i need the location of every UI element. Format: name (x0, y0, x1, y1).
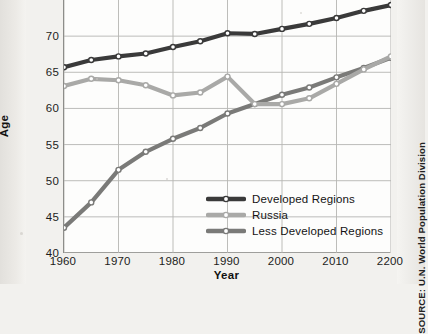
y-axis-tick-label: 45 (46, 211, 59, 223)
data-point-marker (64, 84, 67, 89)
data-point-marker (64, 225, 67, 230)
data-point-marker (280, 102, 285, 107)
data-point-marker (143, 83, 148, 88)
data-point-marker (252, 102, 257, 107)
data-point-marker (116, 78, 121, 83)
y-axis-tick-label: 50 (46, 175, 59, 187)
data-point-marker (171, 93, 176, 98)
legend-item-developed-regions[interactable]: Developed Regions (206, 191, 383, 207)
legend-item-less-developed-regions[interactable]: Less Developed Regions (206, 223, 383, 239)
y-axis-tick-label: 65 (46, 66, 59, 78)
x-axis-tick-label: 1980 (159, 255, 185, 267)
data-point-marker (143, 149, 148, 154)
y-axis-tick-label: 55 (46, 139, 59, 151)
data-point-marker (334, 75, 339, 80)
data-point-marker (334, 16, 339, 21)
x-axis-tick-label: 2010 (322, 255, 348, 267)
x-axis-tick-label: 1990 (213, 255, 239, 267)
x-axis-tick-label: 1960 (50, 255, 76, 267)
data-point-marker (252, 31, 257, 36)
data-point-marker (307, 85, 312, 90)
data-point-marker (225, 111, 230, 116)
data-point-marker (89, 58, 94, 63)
data-point-marker (116, 167, 121, 172)
data-point-marker (198, 125, 203, 130)
y-axis-title: Age (0, 115, 10, 138)
legend-label: Developed Regions (252, 193, 355, 205)
data-point-marker (89, 76, 94, 81)
x-axis-tick-label: 2200 (377, 255, 403, 267)
x-axis-title: Year (63, 269, 390, 281)
data-point-marker (389, 54, 392, 59)
chart-legend: Developed RegionsRussiaLess Developed Re… (206, 191, 383, 239)
data-point-marker (361, 8, 366, 13)
scan-speck (20, 232, 23, 235)
data-point-marker (171, 44, 176, 49)
scan-speck (166, 178, 168, 180)
legend-swatch-icon (206, 223, 246, 239)
y-axis-tick-label: 60 (46, 102, 59, 114)
data-point-marker (171, 136, 176, 141)
data-point-marker (280, 92, 285, 97)
legend-swatch-icon (206, 191, 246, 207)
data-point-marker (307, 96, 312, 101)
data-point-marker (389, 3, 392, 8)
scan-speck (300, 12, 302, 14)
data-point-marker (116, 54, 121, 59)
legend-label: Less Developed Regions (252, 225, 383, 237)
legend-item-russia[interactable]: Russia (206, 207, 383, 223)
y-axis-tick-label: 70 (46, 30, 59, 42)
data-point-marker (280, 26, 285, 31)
legend-label: Russia (252, 209, 288, 221)
source-credit: SOURCE: U.N. World Population Division (417, 142, 428, 334)
data-point-marker (307, 21, 312, 26)
data-point-marker (89, 200, 94, 205)
data-point-marker (334, 81, 339, 86)
data-point-marker (64, 65, 67, 70)
data-point-marker (198, 39, 203, 44)
data-point-marker (198, 90, 203, 95)
data-point-marker (225, 31, 230, 36)
legend-swatch-icon (206, 207, 246, 223)
data-point-marker (143, 51, 148, 56)
x-axis-tick-label: 1970 (104, 255, 130, 267)
data-point-marker (361, 67, 366, 72)
x-axis-tick-label: 2000 (268, 255, 294, 267)
scan-speck (96, 78, 98, 80)
data-point-marker (225, 74, 230, 79)
